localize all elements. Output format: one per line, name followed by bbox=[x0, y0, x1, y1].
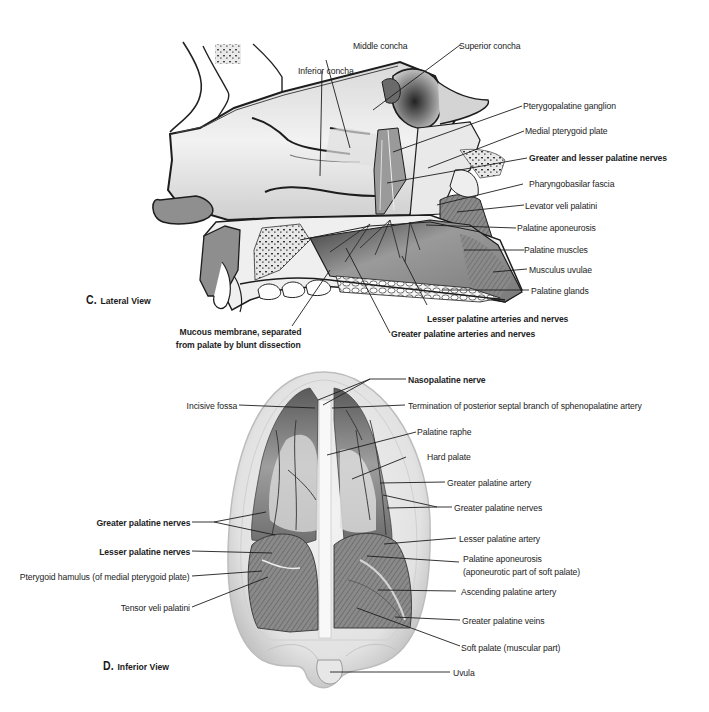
label-lesser-palatine-nerves: Lesser palatine nerves bbox=[99, 546, 190, 557]
label-uvula: Uvula bbox=[453, 667, 475, 678]
label-pharyngobasilar-fascia: Pharyngobasilar fascia bbox=[529, 178, 614, 189]
label-mucous-membrane-line1: Mucous membrane, separated bbox=[179, 326, 301, 337]
label-greater-palatine-artery: Greater palatine artery bbox=[447, 477, 531, 488]
label-termination-septal-branch: Termination of posterior septal branch o… bbox=[408, 400, 642, 411]
label-palatine-muscles: Palatine muscles bbox=[524, 244, 588, 255]
label-medial-pterygoid-plate: Medial pterygoid plate bbox=[525, 125, 608, 136]
inferior-view-name: Inferior View bbox=[117, 661, 169, 672]
inferior-view-letter: D. bbox=[103, 659, 114, 673]
label-hard-palate: Hard palate bbox=[427, 451, 471, 462]
label-lesser-palatine-arteries-nerves: Lesser palatine arteries and nerves bbox=[427, 313, 568, 324]
label-incisive-fossa: Incisive fossa bbox=[186, 400, 237, 411]
label-greater-palatine-arteries-nerves: Greater palatine arteries and nerves bbox=[391, 328, 535, 339]
label-nasopalatine-nerve: Nasopalatine nerve bbox=[408, 374, 486, 385]
label-tensor-veli-palatini: Tensor veli palatini bbox=[121, 602, 190, 613]
palate-anatomy-figure: C. Lateral View Middle concha Superior c… bbox=[0, 0, 709, 712]
label-middle-concha: Middle concha bbox=[353, 40, 408, 51]
label-mucous-membrane-line2: from palate by blunt dissection bbox=[176, 339, 301, 350]
label-soft-palate: Soft palate (muscular part) bbox=[461, 642, 560, 653]
label-palatine-glands: Palatine glands bbox=[531, 285, 589, 296]
label-palatine-aponeurosis-line2: (aponeurotic part of soft palate) bbox=[463, 566, 580, 577]
label-greater-lesser-palatine-nerves: Greater and lesser palatine nerves bbox=[529, 152, 667, 163]
label-pterygopalatine-ganglion: Pterygopalatine ganglion bbox=[523, 100, 616, 111]
label-palatine-aponeurosis: Palatine aponeurosis bbox=[517, 222, 596, 233]
lateral-view-title: C. Lateral View bbox=[86, 290, 151, 308]
label-inferior-concha: Inferior concha bbox=[298, 65, 354, 76]
lateral-view-letter: C. bbox=[86, 293, 97, 307]
label-levator-veli-palatini: Levator veli palatini bbox=[525, 200, 597, 211]
label-greater-palatine-veins: Greater palatine veins bbox=[462, 615, 545, 626]
label-palatine-aponeurosis-line1: Palatine aponeurosis bbox=[463, 553, 542, 564]
inferior-view-title: D. Inferior View bbox=[103, 656, 169, 674]
label-pterygoid-hamulus: Pterygoid hamulus (of medial pterygoid p… bbox=[20, 571, 190, 582]
label-greater-palatine-nerves-right: Greater palatine nerves bbox=[454, 502, 542, 513]
label-greater-palatine-nerves-left: Greater palatine nerves bbox=[96, 517, 190, 528]
label-lesser-palatine-artery: Lesser palatine artery bbox=[459, 533, 540, 544]
label-superior-concha: Superior concha bbox=[459, 40, 521, 51]
lateral-view-name: Lateral View bbox=[100, 295, 150, 306]
label-musculus-uvulae: Musculus uvulae bbox=[529, 264, 592, 275]
label-ascending-palatine-artery: Ascending palatine artery bbox=[461, 586, 556, 597]
label-palatine-raphe: Palatine raphe bbox=[417, 426, 471, 437]
